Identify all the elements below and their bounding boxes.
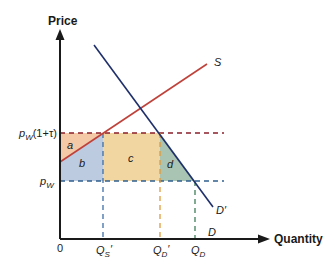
world-price-label: pW — [39, 175, 55, 190]
origin-label: 0 — [57, 242, 63, 254]
region-d — [160, 133, 195, 181]
demand-prime-label: D′ — [216, 204, 227, 216]
tariff-diagram: Price Quantity 0 pW(1+τ) pW QS′ QD′ QD S… — [0, 0, 335, 267]
qd-prime-label: QD′ — [153, 243, 170, 259]
demand-label: D — [208, 226, 216, 238]
y-axis-arrow-icon — [56, 29, 65, 40]
region-b-label: b — [79, 157, 85, 169]
region-c-label: c — [128, 152, 134, 164]
x-axis-label: Quantity — [274, 232, 323, 246]
tariff-price-label: pW(1+τ) — [18, 127, 57, 142]
y-axis-label: Price — [48, 14, 78, 28]
supply-label: S — [214, 56, 222, 68]
x-axis-arrow-icon — [258, 235, 270, 244]
region-d-label: d — [167, 158, 174, 170]
qs-prime-label: QS′ — [96, 243, 113, 259]
demand-curve — [94, 45, 213, 207]
region-a-label: a — [67, 139, 73, 151]
qd-label: QD — [191, 244, 206, 259]
